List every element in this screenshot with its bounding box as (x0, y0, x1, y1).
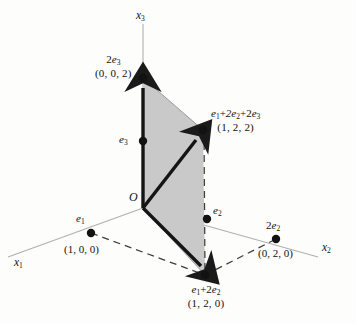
label-sum-xyz-symbol: e1+2e2+2e3 (211, 107, 260, 119)
point-marker-e1-plus-2e2-plus-2e3 (199, 126, 208, 135)
label-point-2e3: 2e3 (0, 0, 2) (95, 53, 132, 80)
axis-label-x1: x1 (14, 256, 23, 270)
label-point-2e2-coords: (0, 2, 0) (258, 247, 293, 259)
point-marker-e1 (87, 229, 95, 237)
label-sum-xy-coords: (1, 2, 0) (170, 297, 242, 309)
label-point-e2: e2 (213, 204, 222, 218)
shaded-parallelogram (143, 78, 205, 275)
point-marker-e1-plus-2e2 (201, 271, 210, 280)
axis-label-x3: x3 (136, 9, 145, 23)
origin-label: O (129, 191, 138, 204)
label-2e3-coords: (0, 0, 2) (95, 67, 132, 79)
diagram-canvas (0, 0, 356, 324)
vector-diagram-figure: x1 x2 x3 O 2e3 (0, 0, 2) e3 e1+2e2+2e3 (… (0, 0, 356, 324)
point-marker-2e2 (272, 235, 280, 243)
point-marker-e2 (203, 215, 211, 223)
label-sum-xyz-coords: (1, 2, 2) (211, 121, 260, 133)
label-point-sum-xy: e1+2e2 (1, 2, 0) (170, 283, 242, 310)
label-point-e1-coords: (1, 0, 0) (64, 243, 99, 255)
label-point-e1-symbol: e1 (76, 212, 85, 226)
label-point-2e2-symbol: 2e2 (266, 219, 280, 233)
label-2e3-symbol: 2e3 (106, 53, 120, 65)
label-sum-xy-symbol: e1+2e2 (192, 283, 221, 295)
label-point-sum-xyz: e1+2e2+2e3 (1, 2, 2) (211, 107, 260, 134)
axis-label-x2: x2 (322, 241, 331, 255)
label-point-e3: e3 (119, 133, 128, 147)
point-marker-2e3 (139, 74, 148, 83)
point-marker-e3 (139, 137, 147, 145)
